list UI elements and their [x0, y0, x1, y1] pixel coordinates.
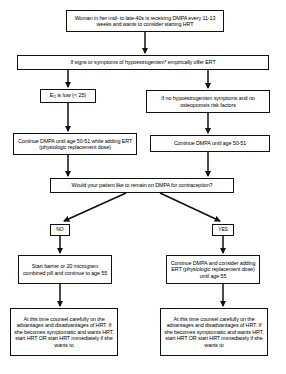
node-continue-dmpa-add-ert-label: Continue DMPA until age 50-51 while addi… — [16, 138, 134, 151]
node-ask-contraception: Would your patient like to remain on DMP… — [50, 178, 234, 193]
node-signs-symptoms-label: If signs or symptoms of hypoestrogenism*… — [70, 59, 215, 65]
edge-ask-to-yes — [160, 193, 220, 221]
node-branch-yes: YES — [212, 224, 234, 236]
node-continue-dmpa-add-ert: Continue DMPA until age 50-51 while addi… — [13, 133, 137, 155]
node-continue-dmpa-consider-ert-label: Continue DMPA and consider adding ERT (p… — [169, 260, 257, 279]
node-counsel-right: At this time counsel carefully on the ad… — [160, 308, 268, 356]
node-continue-dmpa-label: Continue DMPA until age 50-51 — [174, 140, 246, 146]
node-signs-symptoms: If signs or symptoms of hypoestrogenism*… — [17, 55, 269, 70]
node-start-barrier-or-pill-label: Start barrier or 20 microgram combined p… — [21, 263, 109, 276]
node-start-barrier-or-pill: Start barrier or 20 microgram combined p… — [18, 255, 112, 284]
node-counsel-right-label: At this time counsel carefully on the ad… — [163, 316, 265, 348]
node-continue-dmpa: Continue DMPA until age 50-51 — [150, 135, 270, 152]
node-branch-no-label: NO — [56, 227, 63, 233]
flowchart-canvas: Woman in her mid- to late-40s is receivi… — [0, 0, 286, 374]
node-branch-no: NO — [50, 224, 70, 236]
node-branch-yes-label: YES — [218, 227, 228, 233]
node-no-hypoestrogenism: If no hypoestrogenism symptoms and no os… — [146, 90, 270, 113]
node-start-label: Woman in her mid- to late-40s is receivi… — [69, 15, 221, 28]
node-ask-contraception-label: Would your patient like to remain on DMP… — [72, 182, 213, 188]
node-counsel-left-label: At this time counsel carefully on the ad… — [13, 316, 115, 348]
e2-suffix: is low (< 25) — [56, 92, 86, 98]
node-start: Woman in her mid- to late-40s is receivi… — [66, 10, 224, 32]
edge-ask-to-no — [64, 193, 126, 221]
node-counsel-left: At this time counsel carefully on the ad… — [10, 308, 118, 356]
node-continue-dmpa-consider-ert: Continue DMPA and consider adding ERT (p… — [166, 255, 260, 284]
node-no-hypoestrogenism-label: If no hypoestrogenism symptoms and no os… — [149, 95, 267, 108]
node-e2-low-label: E2 is low (< 25) — [50, 92, 86, 99]
node-e2-low: E2 is low (< 25) — [40, 89, 96, 103]
